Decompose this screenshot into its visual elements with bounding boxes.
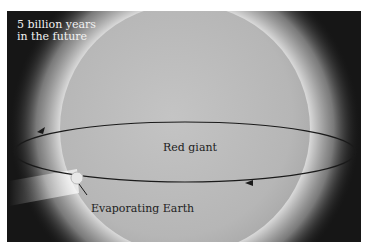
caption-line-2: in the future <box>17 31 96 43</box>
evaporating-earth-label: Evaporating Earth <box>91 203 194 215</box>
red-giant-label: Red giant <box>163 142 217 154</box>
caption: 5 billion years in the future <box>17 19 96 43</box>
red-giant-illustration: 5 billion years in the future Red giant … <box>7 11 361 242</box>
evaporating-earth <box>71 172 83 184</box>
